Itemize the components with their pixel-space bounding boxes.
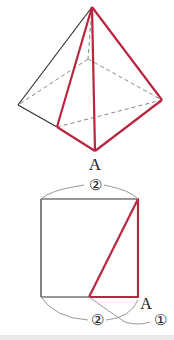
apex-right-edge bbox=[92, 7, 162, 100]
apex-bottom-edge bbox=[92, 7, 95, 151]
bottom-right-edge bbox=[95, 100, 162, 151]
diagram-canvas: A ② ② ① A bbox=[0, 0, 174, 340]
frontleft-bottom-edge bbox=[57, 127, 95, 151]
square-label-a: A bbox=[140, 295, 152, 312]
bottom-divider bbox=[0, 335, 174, 340]
red-triangle bbox=[89, 199, 138, 297]
pyramid-red-edges bbox=[57, 7, 162, 151]
pyramid-label-a: A bbox=[89, 155, 102, 174]
apex-frontleft-edge bbox=[57, 7, 92, 127]
square-red-triangle bbox=[89, 199, 138, 297]
pyramid-black-edges bbox=[18, 7, 92, 127]
top-arc-left bbox=[41, 185, 84, 199]
pyramid-hidden-edges bbox=[18, 7, 162, 127]
left-frontleft-edge bbox=[18, 105, 57, 127]
bottom-arc-left bbox=[41, 297, 88, 320]
bottom-arc-right bbox=[106, 300, 138, 320]
apex-left-edge bbox=[18, 7, 92, 105]
square-outline bbox=[41, 199, 138, 297]
top-arc-right bbox=[104, 185, 138, 199]
back-left-edge bbox=[18, 59, 88, 105]
back-right-edge bbox=[88, 59, 162, 100]
diagonal-edge bbox=[57, 100, 162, 127]
label-top-two: ② bbox=[89, 177, 102, 193]
label-one: ① bbox=[154, 312, 167, 328]
label-bottom-two: ② bbox=[91, 312, 104, 328]
